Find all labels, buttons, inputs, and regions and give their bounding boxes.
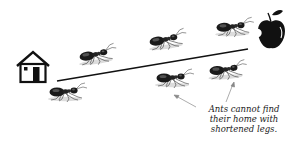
arrow-to-ant-6: [226, 82, 235, 102]
ant-icon: [155, 69, 194, 88]
caption-line-1: Ants cannot find: [196, 104, 292, 114]
ant-icon: [215, 17, 255, 37]
apple-icon: [253, 10, 285, 48]
house-icon: [17, 52, 49, 82]
caption-line-2: their home with: [196, 114, 292, 124]
ant-icon: [147, 28, 188, 52]
ant-icon: [207, 59, 247, 81]
ant-icon: [48, 83, 87, 102]
arrow-to-ant-5: [174, 95, 196, 107]
caption: Ants cannot find their home with shorten…: [196, 104, 292, 134]
ant-icon: [77, 43, 118, 67]
caption-line-3: shortened legs.: [196, 124, 292, 134]
